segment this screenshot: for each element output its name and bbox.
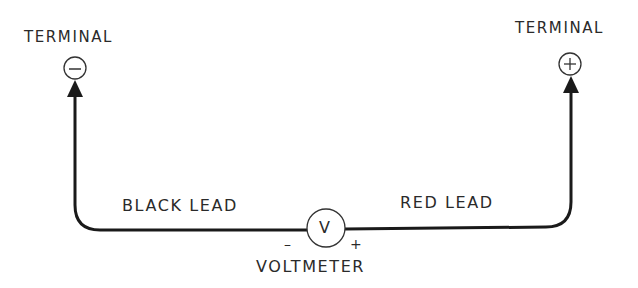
voltmeter-negative-sign: – xyxy=(284,236,291,252)
arrowhead-positive-icon xyxy=(563,76,579,93)
black-lead-label: BLACK LEAD xyxy=(122,196,238,215)
voltmeter-positive-sign: + xyxy=(350,236,362,252)
negative-terminal-icon xyxy=(64,57,86,79)
arrowhead-negative-icon xyxy=(67,80,83,97)
red-lead-label: RED LEAD xyxy=(400,193,494,212)
terminal-positive-label: TERMINAL xyxy=(515,19,604,37)
voltmeter-label: VOLTMETER xyxy=(256,257,365,276)
voltmeter-symbol: V xyxy=(319,218,330,237)
terminal-negative-label: TERMINAL xyxy=(24,28,113,46)
